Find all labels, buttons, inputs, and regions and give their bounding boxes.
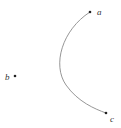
point-a (89, 11, 92, 14)
label-c: c (110, 114, 114, 124)
label-a: a (97, 7, 102, 17)
diagram-canvas: a b c (0, 0, 121, 128)
point-c (105, 112, 108, 115)
curve-a-to-c (60, 12, 106, 113)
label-b: b (5, 72, 10, 82)
point-b (14, 75, 17, 78)
